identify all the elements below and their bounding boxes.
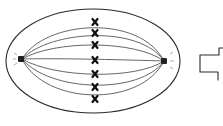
chromosome (93, 96, 98, 102)
chromosomes (93, 19, 98, 102)
chromosome (93, 30, 98, 36)
centriole-left (13, 53, 24, 65)
chromosome (93, 57, 98, 63)
centriole-right (161, 52, 174, 69)
chromosome (93, 19, 98, 25)
arrow-right-icon (200, 48, 223, 80)
diagram-canvas (0, 0, 223, 126)
